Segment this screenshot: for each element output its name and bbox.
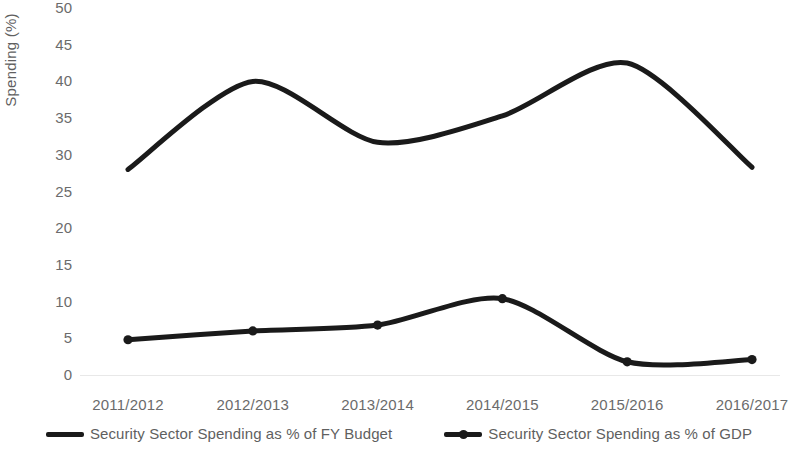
data-point-marker xyxy=(248,326,257,335)
legend-swatch-icon xyxy=(46,427,84,441)
legend-label: Security Sector Spending as % of FY Budg… xyxy=(90,425,392,442)
legend-label: Security Sector Spending as % of GDP xyxy=(488,425,752,442)
data-point-marker xyxy=(123,335,132,344)
line-chart: Spending (%) 50454035302520151050 2011/2… xyxy=(0,0,798,460)
data-point-marker xyxy=(747,355,756,364)
legend-item[interactable]: Security Sector Spending as % of GDP xyxy=(444,425,752,442)
data-point-marker xyxy=(623,357,632,366)
legend-item[interactable]: Security Sector Spending as % of FY Budg… xyxy=(46,425,392,442)
series-line xyxy=(128,62,752,169)
series-line xyxy=(128,298,752,365)
data-point-marker xyxy=(498,294,507,303)
plot-area xyxy=(0,0,798,460)
legend-swatch-icon xyxy=(444,427,482,441)
data-point-marker xyxy=(373,320,382,329)
chart-legend: Security Sector Spending as % of FY Budg… xyxy=(0,425,798,442)
